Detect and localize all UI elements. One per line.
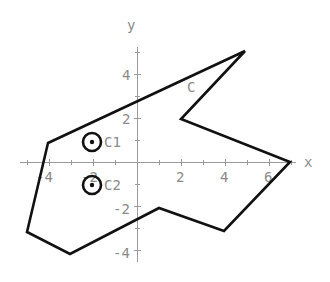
circle-c2-label: C2 [104, 177, 121, 193]
circle-c1: C1 [83, 133, 121, 151]
x-tick-label: 4 [220, 169, 228, 185]
x-tick-label: 2 [176, 169, 184, 185]
y-tick-label: -4 [113, 245, 130, 261]
y-tick-label: 2 [122, 111, 130, 127]
region-c-polygon [27, 51, 290, 254]
circle-c1-center-dot [90, 140, 94, 144]
region-diagram: -4 -2 2 4 6 4 2 -2 -4 x y C C1 C2 [0, 0, 330, 282]
x-axis-label: x [304, 154, 312, 170]
circle-c1-label: C1 [104, 134, 121, 150]
y-tick-label: 4 [122, 67, 130, 83]
y-tick-label: -2 [113, 201, 130, 217]
circle-c2-center-dot [90, 183, 94, 187]
y-axis-label: y [127, 17, 135, 33]
axes: -4 -2 2 4 6 4 2 -2 -4 x y [20, 17, 312, 262]
region-c-label: C [187, 79, 195, 95]
